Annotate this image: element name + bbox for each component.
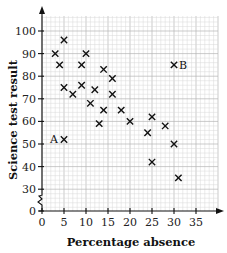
grid [42,16,218,211]
x-tick-label: 5 [61,216,68,229]
y-axis-line-with-break [38,14,42,211]
x-tick-label: 0 [39,216,46,229]
point-label-a: A [49,133,59,146]
x-axis-title: Percentage absence [67,235,195,249]
x-tick-label: 20 [123,216,137,229]
y-axis-title: Science test result [6,59,20,180]
y-tick-label: 70 [22,93,36,106]
point-label-b: B [179,59,187,72]
x-tick-label: 35 [189,216,203,229]
y-tick-label: 80 [22,70,36,83]
x-tick-label: 15 [101,216,115,229]
y-tick-label: 50 [22,138,36,151]
y-tick-label: 90 [22,48,36,61]
y-tick-label: 60 [22,115,36,128]
y-tick-label: 40 [22,161,36,174]
x-tick-label: 30 [167,216,181,229]
x-tick-label: 10 [79,216,93,229]
scatter-chart: 05101520253035 030405060708090100 AB Per… [0,0,227,253]
data-points: AB [49,37,187,181]
x-tick-label: 25 [145,216,159,229]
x-axis-arrow-icon [216,208,224,214]
y-tick-label: 30 [22,183,36,196]
y-axis-arrow-icon [39,6,45,14]
y-tick-label: 0 [29,205,36,218]
y-tick-label: 100 [15,25,36,38]
